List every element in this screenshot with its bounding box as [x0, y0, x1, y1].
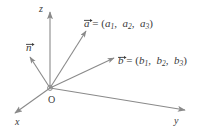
vector-b-equation: b = (b1, b2, b3): [118, 55, 187, 66]
x-axis-label: x: [15, 117, 19, 127]
vector-b-sub-1: 1: [144, 59, 148, 68]
vector-b-sub-2: 2: [162, 59, 166, 68]
vector-n-line: [30, 57, 50, 88]
origin-label: O: [48, 95, 55, 105]
y-axis-line: [50, 88, 185, 110]
vector-a-sub-1: 1: [110, 22, 114, 31]
vector-accent-icon: [118, 55, 127, 59]
vector-a-sub-2: 2: [128, 22, 132, 31]
vector-b-arrow-accent: b: [118, 55, 124, 66]
x-axis-line: [15, 88, 50, 113]
vector-a-equation: a = (a1, a2, a3): [84, 18, 153, 29]
vector-accent-icon: [26, 42, 35, 46]
vector-n-label: n: [26, 42, 32, 53]
y-axis-label: y: [174, 116, 178, 126]
vector-a-arrow-accent: a: [84, 18, 90, 29]
z-axis-label: z: [39, 4, 43, 14]
vector-accent-icon: [84, 18, 93, 22]
vector-b-sub-3: 3: [179, 59, 183, 68]
vector-n-arrow-accent: n: [26, 42, 32, 53]
vector-a-close-paren: ): [149, 17, 153, 29]
vector-b-close-paren: ): [183, 54, 187, 66]
vector-a-sub-3: 3: [145, 22, 149, 31]
vector-diagram-figure: z x y O n a = (a1, a2, a3): [0, 0, 204, 139]
